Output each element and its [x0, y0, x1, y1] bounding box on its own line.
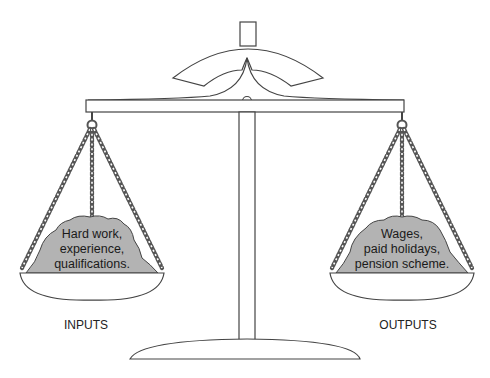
balance-scale-diagram: Hard work, experience, qualifications. I…	[0, 0, 490, 378]
left-pan-assembly: Hard work, experience, qualifications. I…	[20, 112, 164, 332]
scale-beam	[86, 100, 404, 112]
scale-column	[239, 112, 255, 340]
right-pan-dish	[330, 273, 474, 300]
left-pan-dish	[20, 273, 164, 300]
right-pan-assembly: Wages, paid holidays, pension scheme. OU…	[330, 112, 474, 332]
scale-cusp-right	[247, 58, 404, 100]
scale-crescent	[173, 49, 323, 86]
right-pan-label: OUTPUTS	[379, 318, 436, 332]
scale-base	[130, 339, 360, 359]
left-pile-line-3: qualifications.	[54, 257, 130, 271]
left-pan-label: INPUTS	[64, 318, 108, 332]
left-pile-line-2: experience,	[60, 242, 125, 256]
right-pile-line-3: pension scheme.	[355, 257, 450, 271]
right-pile-line-2: paid holidays,	[364, 242, 440, 256]
scale-top-post	[240, 22, 256, 46]
left-pile-line-1: Hard work,	[62, 227, 122, 241]
scale-cusp-left	[88, 58, 247, 100]
right-pile-line-1: Wages,	[381, 227, 423, 241]
